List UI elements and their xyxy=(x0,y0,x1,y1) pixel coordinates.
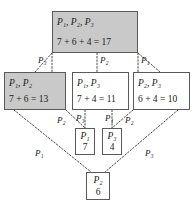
edge-label-top-to-p2p3: P₁ xyxy=(141,55,150,65)
edge-label-p2p3-to-p2: P₃ xyxy=(145,148,154,158)
node-p1[interactable]: P₁ 7 xyxy=(75,128,95,155)
edge-label-p1p2-to-p1: P₂ xyxy=(57,115,66,125)
node-p1p3[interactable]: P₁, P₃ 7 + 4 = 11 xyxy=(72,72,129,110)
edge-label-p1p2-to-p2: P₁ xyxy=(35,148,44,158)
edge-label-top-to-p1p3: P₂ xyxy=(100,55,109,65)
node-p1-set: P₁ xyxy=(80,131,89,141)
edge-label-top-to-p1p2: P₃ xyxy=(38,55,47,65)
node-p1p2p3-set: P₁, P₂, P₃ xyxy=(53,17,137,27)
node-p2p3-set: P₂, P₃ xyxy=(134,78,189,88)
node-p1-sum: 7 xyxy=(83,142,88,152)
edge-label-p1p3-to-p3: P₁ xyxy=(105,113,114,123)
lattice-diagram: P₁, P₂, P₃ 7 + 6 + 4 = 17 P₁, P₂ 7 + 6 =… xyxy=(0,0,192,205)
node-p1p2p3[interactable]: P₁, P₂, P₃ 7 + 6 + 4 = 17 xyxy=(52,11,138,53)
node-p2-sum: 6 xyxy=(96,187,101,197)
node-p2p3-sum: 6 + 4 = 10 xyxy=(134,94,189,104)
node-p1p2[interactable]: P₁, P₂ 7 + 6 = 13 xyxy=(4,72,66,110)
node-p1p2p3-sum: 7 + 6 + 4 = 17 xyxy=(53,37,137,47)
edge-label-p2p3-to-p3: P₂ xyxy=(125,115,134,125)
node-p2-set: P₂ xyxy=(93,175,102,185)
node-p3[interactable]: P₃ 4 xyxy=(102,128,122,155)
node-p1p3-sum: 7 + 4 = 11 xyxy=(73,94,128,104)
node-p1p2-sum: 7 + 6 = 13 xyxy=(5,94,65,104)
node-p2p3[interactable]: P₂, P₃ 6 + 4 = 10 xyxy=(133,72,190,110)
node-p1p2-set: P₁, P₂ xyxy=(5,78,65,88)
node-p2[interactable]: P₂ 6 xyxy=(86,172,110,200)
edge-label-p1p3-to-p1: P₃ xyxy=(76,113,85,123)
node-p3-set: P₃ xyxy=(107,131,116,141)
node-p1p3-set: P₁, P₃ xyxy=(73,78,128,88)
node-p3-sum: 4 xyxy=(110,142,115,152)
